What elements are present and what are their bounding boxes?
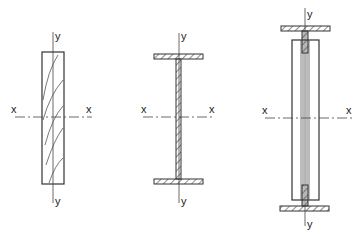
x-label-right: x	[209, 103, 215, 115]
y-label-bottom: y	[55, 195, 61, 207]
y-label-top: y	[181, 30, 187, 42]
figure-composite-section: y y x x	[262, 8, 352, 230]
web	[176, 59, 181, 179]
figure-i-beam-section: y y x x	[141, 30, 215, 207]
y-label-bottom: y	[307, 218, 313, 230]
top-flange	[281, 26, 330, 31]
bottom-flange	[154, 179, 203, 184]
bottom-flange	[280, 206, 329, 211]
outer-plate	[292, 40, 319, 200]
y-label-bottom: y	[181, 195, 187, 207]
x-label-right: x	[346, 104, 352, 116]
figure-rectangular-section: y y x x	[11, 30, 92, 207]
x-label-left: x	[262, 104, 268, 116]
cross-sections-diagram: y y x x y y x x y y x x	[0, 0, 363, 235]
y-label-top: y	[55, 30, 61, 42]
x-label-right: x	[86, 103, 92, 115]
top-flange	[154, 54, 203, 59]
x-label-left: x	[141, 103, 147, 115]
y-label-top: y	[307, 8, 313, 20]
x-label-left: x	[11, 103, 17, 115]
